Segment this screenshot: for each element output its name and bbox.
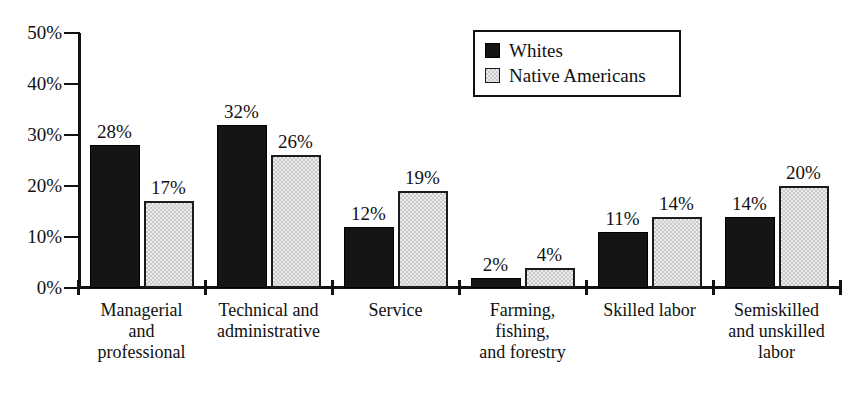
- bar-whites[interactable]: [344, 227, 394, 288]
- category-label: Service: [326, 300, 465, 321]
- category-label-line: fishing,: [453, 321, 592, 342]
- category-label: Semiskilledand unskilledlabor: [707, 300, 846, 363]
- bar-natives[interactable]: [271, 155, 321, 288]
- bar-whites[interactable]: [598, 232, 648, 288]
- category-label-line: Managerial: [72, 300, 211, 321]
- y-axis-tick-label: 40%: [4, 74, 62, 93]
- category-label-line: Semiskilled: [707, 300, 846, 321]
- bar-value-label: 12%: [336, 204, 402, 223]
- bar-value-label: 28%: [82, 122, 148, 141]
- bar-value-label: 32%: [209, 102, 275, 121]
- category-label-line: Technical and: [199, 300, 338, 321]
- category-label: Technical andadministrative: [199, 300, 338, 342]
- bar-value-label: 17%: [136, 178, 202, 197]
- y-axis-tick-label: 10%: [4, 227, 62, 246]
- legend-item-whites[interactable]: Whites: [485, 38, 669, 63]
- bar-value-label: 20%: [771, 163, 837, 182]
- category-label: Farming,fishing,and forestry: [453, 300, 592, 363]
- category-label-line: professional: [72, 342, 211, 363]
- y-axis-tick-label: 30%: [4, 125, 62, 144]
- category-label-line: and forestry: [453, 342, 592, 363]
- bar-value-label: 4%: [517, 245, 583, 264]
- category-label-line: and: [72, 321, 211, 342]
- bar-whites[interactable]: [471, 278, 521, 288]
- y-axis-tick-label: 20%: [4, 176, 62, 195]
- legend-swatch-whites-icon: [485, 43, 500, 58]
- bar-value-label: 14%: [717, 194, 783, 213]
- bar-natives[interactable]: [652, 217, 702, 288]
- bar-value-label: 19%: [390, 168, 456, 187]
- bar-whites[interactable]: [725, 217, 775, 288]
- category-label-line: Skilled labor: [580, 300, 719, 321]
- category-label-line: Service: [326, 300, 465, 321]
- legend-swatch-native-americans-icon: [485, 68, 500, 83]
- bar-natives[interactable]: [144, 201, 194, 288]
- legend-item-native-americans[interactable]: Native Americans: [485, 63, 669, 88]
- bar-natives[interactable]: [398, 191, 448, 288]
- bar-natives[interactable]: [779, 186, 829, 288]
- y-axis-tick-label: 50%: [4, 23, 62, 42]
- category-label: Skilled labor: [580, 300, 719, 321]
- legend: Whites Native Americans: [473, 30, 681, 97]
- category-label-line: labor: [707, 342, 846, 363]
- plot-area: 28%32%12%2%11%14%17%26%19%4%14%20%: [78, 33, 840, 288]
- legend-label-native-americans: Native Americans: [509, 66, 646, 85]
- category-label-line: and unskilled: [707, 321, 846, 342]
- bar-value-label: 26%: [263, 132, 329, 151]
- bar-whites[interactable]: [90, 145, 140, 288]
- y-axis-tick-label: 0%: [4, 278, 62, 297]
- bar-chart: 0%10%20%30%40%50% 28%32%12%2%11%14%17%26…: [0, 0, 862, 393]
- bar-natives[interactable]: [525, 268, 575, 288]
- legend-label-whites: Whites: [509, 41, 563, 60]
- bar-value-label: 14%: [644, 194, 710, 213]
- category-label: Managerialandprofessional: [72, 300, 211, 363]
- category-label-line: administrative: [199, 321, 338, 342]
- category-label-line: Farming,: [453, 300, 592, 321]
- bar-whites[interactable]: [217, 125, 267, 288]
